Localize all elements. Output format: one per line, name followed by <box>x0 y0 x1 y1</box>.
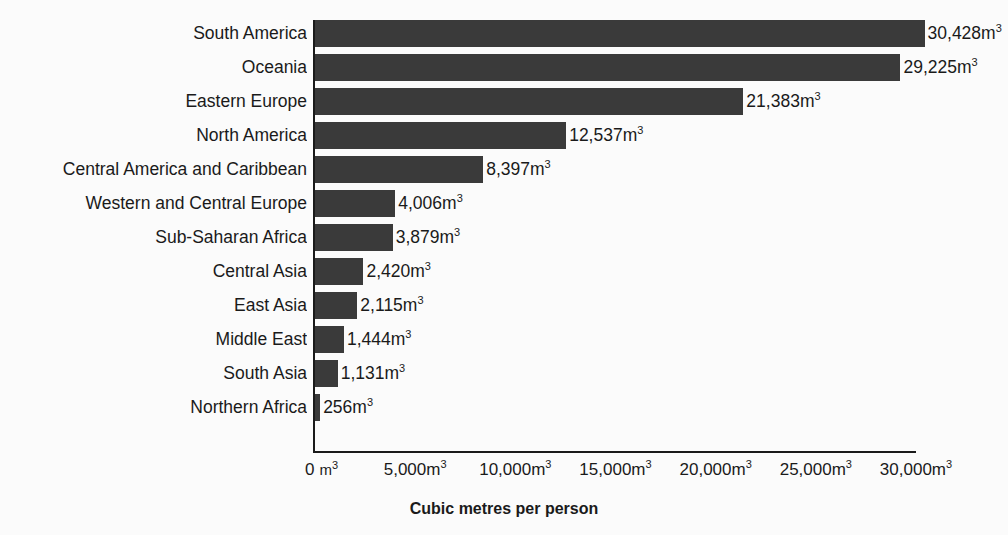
unit-exponent: 3 <box>417 294 423 306</box>
unit-exponent: 3 <box>637 124 643 136</box>
unit-exponent: 3 <box>454 226 460 238</box>
unit-exponent: 3 <box>545 158 551 170</box>
bar-row: East Asia2,115m3 <box>0 292 1008 319</box>
unit-exponent: 3 <box>545 458 551 470</box>
unit-exponent: 3 <box>457 192 463 204</box>
bar-value-label: 1,131m3 <box>338 360 406 387</box>
category-label: North America <box>0 122 307 149</box>
plot-area: South America30,428m3Oceania29,225m3East… <box>0 0 1008 448</box>
bar-value-label: 30,428m3 <box>925 20 1002 47</box>
x-tick-label: 5,000m3 <box>384 458 447 482</box>
bar <box>315 156 483 183</box>
bar-row: South America30,428m3 <box>0 20 1008 47</box>
unit-exponent: 3 <box>646 458 652 470</box>
x-axis-title: Cubic metres per person <box>0 500 1008 518</box>
bar <box>315 88 743 115</box>
bar <box>315 326 344 353</box>
category-label: Central Asia <box>0 258 307 285</box>
unit-exponent: 3 <box>425 260 431 272</box>
bar-value-label: 3,879m3 <box>393 224 461 251</box>
x-axis-tick-labels: 0m35,000m310,000m315,000m320,000m325,000… <box>0 458 1008 484</box>
bar-value-label: 1,444m3 <box>344 326 412 353</box>
x-axis-line <box>315 451 916 453</box>
bar <box>315 360 338 387</box>
bar-value-label: 21,383m3 <box>743 88 820 115</box>
bar-chart: South America30,428m3Oceania29,225m3East… <box>0 0 1008 535</box>
x-tick-label: 15,000m3 <box>579 458 651 482</box>
bar-value-label: 2,115m3 <box>357 292 423 319</box>
category-label: Northern Africa <box>0 394 307 421</box>
category-label: South Asia <box>0 360 307 387</box>
bar <box>315 122 566 149</box>
category-label: Western and Central Europe <box>0 190 307 217</box>
bar-row: Middle East1,444m3 <box>0 326 1008 353</box>
x-tick-label: 30,000m3 <box>880 458 952 482</box>
unit-exponent: 3 <box>996 22 1002 34</box>
unit-exponent: 3 <box>399 362 405 374</box>
bar <box>315 292 357 319</box>
unit-exponent: 3 <box>846 458 852 470</box>
unit-exponent: 3 <box>972 56 978 68</box>
bar-row: Oceania29,225m3 <box>0 54 1008 81</box>
unit-exponent: 3 <box>440 458 446 470</box>
unit-exponent: 3 <box>814 90 820 102</box>
unit-exponent: 3 <box>946 458 952 470</box>
bar <box>315 190 395 217</box>
unit-exponent: 3 <box>367 396 373 408</box>
bar-value-label: 12,537m3 <box>566 122 643 149</box>
bar-value-label: 8,397m3 <box>483 156 551 183</box>
unit-exponent: 3 <box>405 328 411 340</box>
bar-row: South Asia1,131m3 <box>0 360 1008 387</box>
bar-row: North America12,537m3 <box>0 122 1008 149</box>
bar-row: Northern Africa256m3 <box>0 394 1008 421</box>
unit-exponent: 3 <box>332 459 338 471</box>
category-label: Central America and Caribbean <box>0 156 307 183</box>
x-tick-label: 20,000m3 <box>680 458 752 482</box>
bar <box>315 224 393 251</box>
bar-value-label: 29,225m3 <box>900 54 977 81</box>
bar-row: Sub-Saharan Africa3,879m3 <box>0 224 1008 251</box>
x-tick-label: 10,000m3 <box>479 458 551 482</box>
category-label: Oceania <box>0 54 307 81</box>
bar-row: Central America and Caribbean8,397m3 <box>0 156 1008 183</box>
bar <box>315 54 900 81</box>
category-label: Eastern Europe <box>0 88 307 115</box>
unit-exponent: 3 <box>746 458 752 470</box>
y-axis-line <box>313 20 315 453</box>
x-tick-label: 0m3 <box>305 458 338 482</box>
bar <box>315 20 925 47</box>
bar-row: Western and Central Europe4,006m3 <box>0 190 1008 217</box>
bar-value-label: 4,006m3 <box>395 190 463 217</box>
bar-row: Central Asia2,420m3 <box>0 258 1008 285</box>
category-label: South America <box>0 20 307 47</box>
bar <box>315 258 363 285</box>
bar-row: Eastern Europe21,383m3 <box>0 88 1008 115</box>
category-label: East Asia <box>0 292 307 319</box>
zero-tick-unit: m3 <box>319 461 338 478</box>
bar-value-label: 256m3 <box>320 394 373 421</box>
bar-value-label: 2,420m3 <box>363 258 431 285</box>
x-tick-label: 25,000m3 <box>780 458 852 482</box>
category-label: Sub-Saharan Africa <box>0 224 307 251</box>
category-label: Middle East <box>0 326 307 353</box>
